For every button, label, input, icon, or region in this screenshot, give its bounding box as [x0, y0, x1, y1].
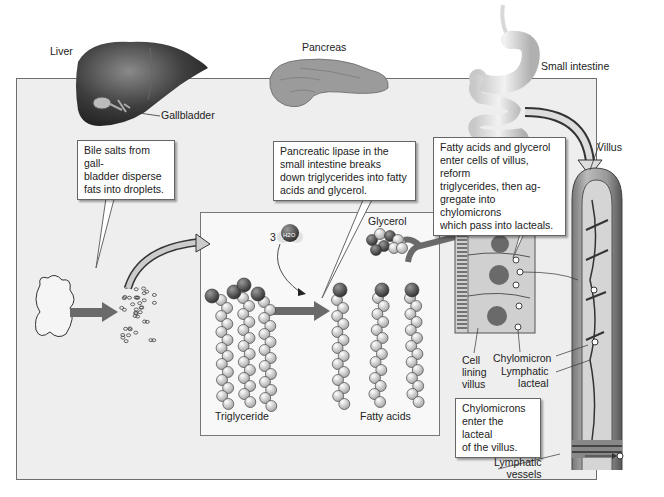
- fat-globule: [36, 275, 75, 336]
- cell-lining-villus-label: Cell lining villus: [462, 354, 487, 390]
- villus-label: Villus: [597, 141, 622, 153]
- glycerol-head-atom: [205, 289, 219, 303]
- fat-droplet: [149, 339, 153, 342]
- carbon-atom: [375, 397, 386, 408]
- glycerol-atom: [371, 245, 382, 256]
- fatty-acid-head-atom: [375, 283, 389, 297]
- emulsified-droplets: [120, 285, 157, 342]
- fat-droplet: [128, 296, 132, 299]
- fat-droplet: [124, 340, 128, 343]
- glycerol-atom: [397, 243, 408, 254]
- callout-pancreatic-lipase: Pancreatic lipase in the small intestine…: [273, 141, 416, 201]
- carbon-atom: [413, 397, 424, 408]
- fat-droplet: [134, 288, 138, 291]
- gallbladder-label: Gallbladder: [161, 109, 215, 121]
- chylomicron-label: Chylomicron: [493, 352, 551, 364]
- callout-villus-absorption: Fatty acids and glycerol enter cells of …: [433, 137, 566, 236]
- fat-droplet: [120, 306, 124, 309]
- fat-droplet: [142, 287, 146, 290]
- lymphatic-lacteal-label: Lymphatic lacteal: [501, 365, 548, 389]
- fatty-acid-head-atom: [405, 283, 419, 297]
- carbon-atom: [223, 399, 234, 410]
- fat-droplet: [131, 303, 135, 306]
- fatty-acids-label: Fatty acids: [360, 410, 411, 422]
- diagram-artwork: [0, 0, 664, 497]
- carbon-atom: [339, 399, 350, 410]
- arrow-to-droplets: [70, 302, 118, 322]
- water-formula-label: H2O: [283, 229, 295, 241]
- fat-droplet: [138, 302, 142, 305]
- fat-droplet: [152, 301, 156, 304]
- fat-droplet: [134, 308, 138, 311]
- glycerol-head-atom: [237, 278, 251, 292]
- small-intestine-label: Small intestine: [541, 60, 609, 72]
- fat-droplet: [124, 327, 128, 330]
- triglyceride-label: Triglyceride: [215, 410, 269, 422]
- small-intestine-illustration: [474, 5, 531, 151]
- lymphatic-vessels-label: Lymphatic vessels: [494, 456, 541, 480]
- fat-droplet: [142, 299, 146, 302]
- callout-bile-salts: Bile salts from gall- bladder disperse f…: [77, 140, 175, 200]
- fat-droplet: [127, 334, 131, 337]
- liver-label: Liver: [50, 45, 73, 57]
- pancreas-label: Pancreas: [302, 41, 346, 53]
- glycerol-atom: [375, 229, 386, 240]
- callout-chylomicrons-lacteal: Chylomicrons enter the lacteal of the vi…: [455, 398, 541, 458]
- fat-droplet: [134, 331, 138, 334]
- pancreas-illustration: [270, 59, 388, 107]
- fat-droplet: [138, 311, 142, 314]
- water-count-label: 3: [270, 231, 276, 243]
- fat-droplet: [143, 320, 147, 323]
- glycerol-head-atom: [251, 287, 265, 301]
- arrow-droplets-to-panel: [128, 234, 210, 288]
- fat-droplet: [152, 293, 156, 296]
- fatty-acid-head-atom: [333, 283, 347, 297]
- arrow-triglyceride-to-fatty-acids: [272, 301, 330, 321]
- villus-illustration: [572, 142, 623, 470]
- carbon-atom: [245, 397, 256, 408]
- glycerol-label: Glycerol: [368, 215, 407, 227]
